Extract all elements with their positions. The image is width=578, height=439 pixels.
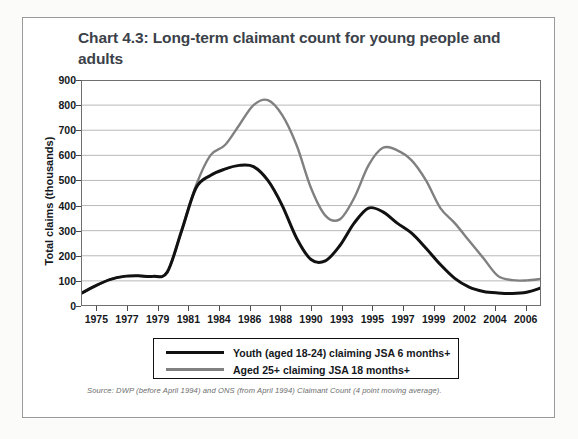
x-tick-label: 1997: [391, 313, 414, 325]
x-tick-mark: [311, 306, 312, 311]
x-tick-label: 1993: [330, 313, 353, 325]
chart-title: Chart 4.3: Long-term claimant count for …: [78, 28, 518, 69]
y-tick-label: 400: [58, 200, 76, 212]
x-tick-label: 1975: [85, 313, 108, 325]
x-tick-label: 1984: [207, 313, 230, 325]
legend-label-adults: Aged 25+ claiming JSA 18 months+: [233, 364, 410, 376]
x-tick-mark: [403, 306, 404, 311]
y-tick-label: 500: [58, 174, 76, 186]
y-tick-label: 800: [58, 99, 76, 111]
legend-swatch-youth: [166, 351, 224, 354]
x-tick-label: 1999: [422, 313, 445, 325]
x-tick-label: 1977: [115, 313, 138, 325]
x-tick-label: 1981: [177, 313, 200, 325]
legend-swatch-adults: [166, 368, 224, 371]
x-tick-mark: [526, 306, 527, 311]
y-tick-label: 100: [58, 275, 76, 287]
legend-item-adults: Aged 25+ claiming JSA 18 months+: [166, 362, 458, 377]
x-tick-mark: [434, 306, 435, 311]
x-tick-mark: [188, 306, 189, 311]
x-tick-label: 1990: [299, 313, 322, 325]
x-tick-mark: [372, 306, 373, 311]
x-tick-label: 1988: [269, 313, 292, 325]
x-tick-label: 2004: [483, 313, 506, 325]
chart-legend: Youth (aged 18-24) claiming JSA 6 months…: [153, 338, 459, 379]
plot-area: [81, 80, 541, 306]
chart-page: Chart 4.3: Long-term claimant count for …: [0, 0, 578, 439]
x-tick-mark: [127, 306, 128, 311]
x-tick-mark: [219, 306, 220, 311]
x-tick-label: 2002: [453, 313, 476, 325]
y-tick-label: 300: [58, 225, 76, 237]
x-tick-mark: [280, 306, 281, 311]
plot-border: [81, 80, 541, 306]
x-tick-label: 1979: [146, 313, 169, 325]
y-tick-label: 700: [58, 124, 76, 136]
y-axis-label: Total claims (thousands): [43, 101, 55, 301]
y-tick-label: 900: [58, 74, 76, 86]
x-tick-mark: [464, 306, 465, 311]
y-axis: Total claims (thousands) 010020030040050…: [23, 80, 76, 306]
x-tick-label: 2006: [514, 313, 537, 325]
x-tick-mark: [250, 306, 251, 311]
x-tick-label: 1995: [361, 313, 384, 325]
legend-item-youth: Youth (aged 18-24) claiming JSA 6 months…: [166, 345, 458, 360]
x-tick-label: 1986: [238, 313, 261, 325]
x-tick-mark: [342, 306, 343, 311]
x-axis: 1975197719791981198419861988199019931995…: [81, 306, 541, 332]
x-tick-mark: [495, 306, 496, 311]
y-tick-label: 200: [58, 250, 76, 262]
x-tick-mark: [96, 306, 97, 311]
x-tick-mark: [158, 306, 159, 311]
legend-label-youth: Youth (aged 18-24) claiming JSA 6 months…: [233, 347, 450, 359]
chart-card: Chart 4.3: Long-term claimant count for …: [22, 17, 555, 418]
y-tick-label: 600: [58, 149, 76, 161]
chart-source-note: Source: DWP (before April 1994) and ONS …: [87, 386, 507, 395]
